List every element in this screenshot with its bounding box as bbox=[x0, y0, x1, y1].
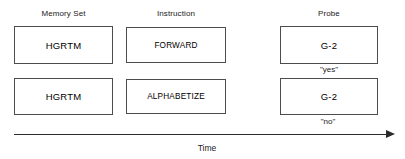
memory-set-box-trial-1: HGRTM bbox=[14, 26, 113, 64]
probe-text-trial-1: G-2 bbox=[321, 40, 337, 51]
column-header-instruction: Instruction bbox=[126, 9, 226, 18]
probe-box-trial-2: G-2 bbox=[280, 78, 378, 115]
instruction-box-trial-2: ALPHABETIZE bbox=[126, 79, 226, 114]
probe-text-trial-2: G-2 bbox=[321, 91, 337, 102]
response-label-trial-1: "yes" bbox=[280, 65, 378, 74]
probe-box-trial-1: G-2 bbox=[280, 26, 378, 64]
instruction-text-trial-1: FORWARD bbox=[154, 41, 197, 50]
instruction-box-trial-1: FORWARD bbox=[126, 27, 226, 63]
time-axis-line bbox=[14, 134, 389, 135]
memory-set-text-trial-1: HGRTM bbox=[46, 40, 82, 51]
column-header-probe: Probe bbox=[280, 9, 378, 18]
memory-set-text-trial-2: HGRTM bbox=[46, 91, 82, 102]
memory-set-box-trial-2: HGRTM bbox=[14, 78, 113, 115]
arrow-right-icon bbox=[386, 130, 395, 138]
response-label-trial-2: "no" bbox=[279, 117, 377, 126]
time-axis-label: Time bbox=[157, 143, 257, 153]
task-timeline-diagram: Memory Set Instruction Probe HGRTM FORWA… bbox=[0, 0, 405, 159]
instruction-text-trial-2: ALPHABETIZE bbox=[147, 92, 205, 101]
column-header-memory-set: Memory Set bbox=[14, 9, 113, 18]
